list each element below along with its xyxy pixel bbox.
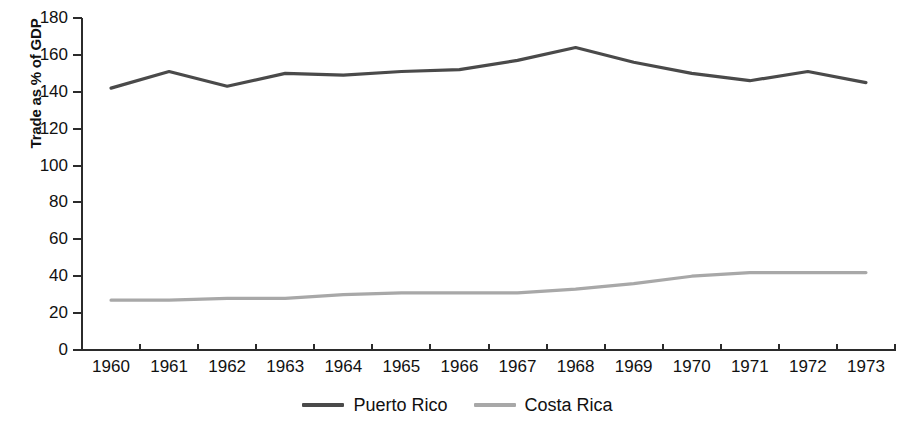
y-axis-tick	[73, 238, 82, 240]
y-axis-tick-label: 40	[2, 267, 68, 284]
y-axis-tick	[73, 17, 82, 19]
x-axis-tick-label: 1962	[198, 358, 256, 377]
y-axis-tick	[73, 201, 82, 203]
y-axis-tick-label: 160	[2, 46, 68, 63]
x-axis-tick	[604, 344, 606, 351]
y-axis-tick	[73, 54, 82, 56]
x-axis-tick-label: 1967	[489, 358, 547, 377]
x-axis-tick	[546, 344, 548, 351]
legend-label: Costa Rica	[525, 396, 613, 414]
legend-label: Puerto Rico	[353, 396, 447, 414]
y-axis-tick	[73, 312, 82, 314]
series-line-costa-rica	[111, 273, 866, 301]
x-axis-tick	[371, 344, 373, 351]
y-axis-line	[81, 18, 83, 351]
x-axis-tick	[778, 344, 780, 351]
y-axis-tick	[73, 128, 82, 130]
x-axis-tick-label: 1961	[140, 358, 198, 377]
y-axis-tick-label: 120	[2, 120, 68, 137]
y-axis-tick	[73, 91, 82, 93]
y-axis-tick-label: 100	[2, 157, 68, 174]
y-axis-tick	[73, 165, 82, 167]
x-axis-tick	[197, 344, 199, 351]
x-axis-tick-label: 1968	[547, 358, 605, 377]
legend-swatch-icon	[474, 403, 516, 407]
x-axis-tick	[488, 344, 490, 351]
y-axis-tick-label: 80	[2, 193, 68, 210]
y-axis-tick	[73, 275, 82, 277]
y-axis-tick-label: 0	[2, 341, 68, 358]
x-axis-tick	[139, 344, 141, 351]
x-axis-tick-label: 1971	[721, 358, 779, 377]
series-line-puerto-rico	[111, 48, 866, 89]
x-axis-tick-label: 1973	[837, 358, 895, 377]
x-axis-tick	[836, 344, 838, 351]
x-axis-tick	[429, 344, 431, 351]
y-axis-tick-label: 180	[2, 9, 68, 26]
x-axis-tick	[313, 344, 315, 351]
legend-swatch-icon	[302, 403, 344, 407]
line-chart: Trade as % of GDP 0204060801001201401601…	[0, 0, 915, 423]
x-axis-tick-label: 1972	[779, 358, 837, 377]
x-axis-tick-label: 1969	[605, 358, 663, 377]
x-axis-tick-label: 1964	[314, 358, 372, 377]
y-axis-tick-label: 60	[2, 230, 68, 247]
x-axis-tick-label: 1963	[256, 358, 314, 377]
x-axis-tick	[81, 344, 83, 351]
x-axis-tick	[662, 344, 664, 351]
legend-item-puerto-rico[interactable]: Puerto Rico	[302, 396, 447, 414]
x-axis-tick-label: 1965	[372, 358, 430, 377]
chart-legend: Puerto RicoCosta Rica	[0, 396, 915, 414]
x-axis-tick	[255, 344, 257, 351]
x-axis-tick	[720, 344, 722, 351]
y-axis-tick-label: 20	[2, 304, 68, 321]
legend-item-costa-rica[interactable]: Costa Rica	[474, 396, 613, 414]
x-axis-tick-label: 1966	[430, 358, 488, 377]
x-axis-tick-label: 1970	[663, 358, 721, 377]
x-axis-tick-label: 1960	[82, 358, 140, 377]
y-axis-tick-label: 140	[2, 83, 68, 100]
x-axis-tick	[894, 344, 896, 351]
